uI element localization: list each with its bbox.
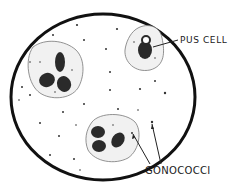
- pus-cell-label: PUS CELL: [180, 36, 227, 45]
- microscope-field-diagram: [0, 0, 237, 184]
- pus-cell-bottom: [86, 115, 139, 162]
- pus-cell-left: [28, 41, 83, 97]
- gonococci-label: GONOCOCCI: [145, 166, 210, 176]
